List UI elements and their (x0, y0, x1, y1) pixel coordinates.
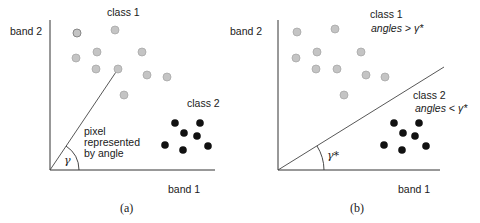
class2-points (380, 119, 430, 154)
class1-point (312, 65, 320, 73)
class1-point (333, 65, 341, 73)
class1-point (357, 48, 365, 56)
class2-point (180, 129, 188, 137)
class1-point (120, 91, 128, 99)
class2-points (161, 119, 212, 154)
class1-point (111, 26, 119, 34)
class1-point (92, 65, 100, 73)
angle-symbol: γ (64, 154, 71, 167)
y-axis-label: band 2 (230, 25, 262, 37)
class1-point (381, 73, 389, 81)
class1-point (93, 48, 101, 56)
class2-rule: angles < γ* (415, 102, 468, 114)
class2-point (196, 119, 204, 127)
class2-point (161, 141, 169, 149)
class1-rule-word: angles (371, 22, 403, 34)
class1-point (340, 91, 348, 99)
panel-b: band 2 band 1 class 1 angles > γ* class … (230, 8, 468, 215)
class1-point (331, 25, 339, 33)
class2-point (204, 142, 212, 150)
panel-caption: (a) (120, 201, 133, 215)
class1-point (138, 48, 146, 56)
class2-rule-rest: < γ* (446, 102, 468, 114)
panel-a: band 2 band 1 class 1 class 2 γ pixel re… (10, 6, 220, 215)
class1-label: class 1 (370, 8, 403, 20)
class1-point (313, 48, 321, 56)
class1-point (293, 28, 301, 36)
class1-points (72, 26, 171, 99)
x-axis-label: band 1 (168, 183, 200, 195)
class2-point (171, 119, 179, 127)
class2-label: class 2 (187, 97, 220, 109)
class2-point (398, 146, 406, 154)
class2-point (193, 132, 201, 140)
class2-point (415, 119, 423, 127)
class2-rule-word: angles (415, 102, 447, 114)
class2-point (380, 141, 388, 149)
class1-points (292, 25, 389, 99)
class2-point (390, 119, 398, 127)
angle-symbol: γ* (327, 149, 340, 162)
class1-point (362, 71, 370, 79)
x-axis-label: band 1 (398, 183, 430, 195)
panel-caption: (b) (350, 201, 364, 215)
annotation-line-3: by angle (84, 147, 124, 159)
angle-arc (317, 146, 324, 170)
decision-boundary (278, 67, 444, 170)
class1-point (72, 54, 80, 62)
class2-point (399, 129, 407, 137)
class1-point (292, 54, 300, 62)
class2-point (422, 142, 430, 150)
spectral-angle-diagram: band 2 band 1 class 1 class 2 γ pixel re… (0, 0, 480, 223)
class1-point (73, 29, 81, 37)
class1-point (114, 65, 122, 73)
y-axis-label: band 2 (10, 25, 42, 37)
class2-label: class 2 (413, 89, 446, 101)
class1-label: class 1 (107, 6, 140, 18)
class2-point (411, 132, 419, 140)
class2-point (179, 146, 187, 154)
class1-rule-rest: > γ* (402, 22, 424, 34)
class1-rule: angles > γ* (371, 22, 424, 34)
class1-point (163, 73, 171, 81)
class1-point (143, 71, 151, 79)
